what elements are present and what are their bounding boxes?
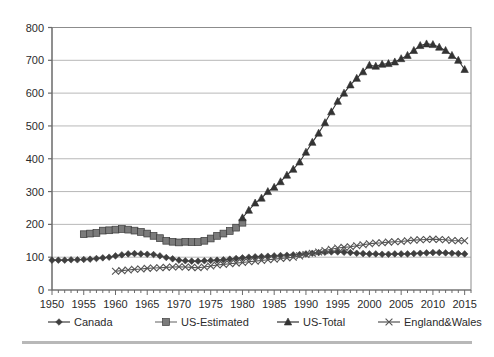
diamond-marker [49, 257, 56, 264]
square-marker [118, 226, 125, 233]
diamond-marker [144, 251, 151, 258]
x-axis-label-1995: 1995 [325, 298, 349, 310]
diamond-marker [404, 251, 411, 258]
x-axis-label-1990: 1990 [294, 298, 318, 310]
diamond-marker [392, 251, 399, 258]
diamond-marker [176, 257, 183, 264]
square-marker [131, 227, 138, 234]
diamond-marker [131, 250, 138, 257]
x-axis-label-2010: 2010 [421, 298, 445, 310]
x-axis-label-1955: 1955 [72, 298, 96, 310]
square-marker [163, 319, 170, 326]
diamond-marker [188, 258, 195, 265]
diamond-marker [385, 251, 392, 258]
diamond-marker [360, 250, 367, 257]
diamond-marker [99, 255, 106, 262]
x-axis-label-2000: 2000 [357, 298, 381, 310]
y-axis-label-100: 100 [26, 251, 44, 263]
y-axis-label-200: 200 [26, 218, 44, 230]
square-marker [137, 229, 144, 236]
square-marker [93, 230, 100, 237]
triangle-marker [315, 129, 322, 136]
diamond-marker [347, 249, 354, 256]
diamond-marker [379, 251, 386, 258]
chart-container: 0100200300400500600700800195019551960196… [0, 0, 494, 357]
diamond-marker [411, 250, 418, 257]
diamond-marker [449, 250, 456, 257]
square-marker [176, 239, 183, 246]
x-axis-label-1960: 1960 [103, 298, 127, 310]
square-marker [163, 237, 170, 244]
diamond-marker [61, 257, 68, 264]
chart-plot: 0100200300400500600700800195019551960196… [0, 0, 494, 357]
y-axis-label-600: 600 [26, 87, 44, 99]
diamond-marker [455, 250, 462, 257]
diamond-marker [398, 251, 405, 258]
diamond-marker [353, 250, 360, 257]
diamond-marker [436, 249, 443, 256]
square-marker [169, 238, 176, 245]
diamond-marker [372, 251, 379, 258]
y-axis-label-0: 0 [38, 284, 44, 296]
square-marker [80, 231, 87, 238]
diamond-marker [56, 319, 63, 326]
triangle-marker [251, 199, 258, 206]
diamond-marker [442, 250, 449, 257]
diamond-marker [182, 257, 189, 264]
x-axis-label-1970: 1970 [167, 298, 191, 310]
diamond-marker [112, 253, 119, 260]
diamond-marker [423, 250, 430, 257]
y-axis-label-300: 300 [26, 186, 44, 198]
diamond-marker [106, 254, 113, 261]
triangle-marker [328, 108, 335, 115]
diamond-marker [461, 251, 468, 258]
legend-label-us-total: US-Total [303, 316, 345, 328]
x-axis-label-1965: 1965 [135, 298, 159, 310]
diamond-marker [163, 254, 170, 261]
diamond-marker [93, 255, 100, 262]
x-axis-label-2015: 2015 [452, 298, 476, 310]
diamond-marker [195, 258, 202, 265]
diamond-marker [169, 256, 176, 263]
y-axis-label-400: 400 [26, 153, 44, 165]
diamond-marker [157, 253, 164, 260]
square-marker [214, 232, 221, 239]
square-marker [150, 232, 157, 239]
square-marker [233, 224, 240, 231]
square-marker [157, 235, 164, 242]
square-marker [188, 239, 195, 246]
square-marker [201, 237, 208, 244]
x-axis-label-1950: 1950 [40, 298, 64, 310]
diamond-marker [55, 257, 62, 264]
diamond-marker [138, 251, 145, 258]
y-axis-label-500: 500 [26, 120, 44, 132]
square-marker [125, 226, 132, 233]
y-axis-label-800: 800 [26, 22, 44, 34]
diamond-marker [430, 249, 437, 256]
x-axis-label-1980: 1980 [230, 298, 254, 310]
diamond-marker [417, 250, 424, 257]
triangle-marker [302, 148, 309, 155]
footer-divider [22, 341, 472, 344]
diamond-marker [207, 257, 214, 264]
square-marker [220, 230, 227, 237]
square-marker [226, 228, 233, 235]
square-marker [195, 239, 202, 246]
square-marker [144, 230, 151, 237]
x-axis-label-1985: 1985 [262, 298, 286, 310]
legend-label-canada: Canada [74, 316, 113, 328]
triangle-marker [423, 40, 430, 47]
x-axis-label-1975: 1975 [198, 298, 222, 310]
triangle-marker [366, 61, 373, 68]
y-axis-label-700: 700 [26, 54, 44, 66]
square-marker [112, 226, 119, 233]
triangle-marker [321, 119, 328, 126]
square-marker [99, 227, 106, 234]
diamond-marker [201, 257, 208, 264]
square-marker [87, 230, 94, 237]
triangle-marker [404, 51, 411, 58]
legend-label-us-estimated: US-Estimated [181, 316, 249, 328]
diamond-marker [271, 253, 278, 260]
square-marker [182, 238, 189, 245]
triangle-marker [410, 46, 417, 53]
